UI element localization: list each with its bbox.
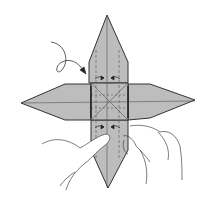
bottom-point-flap <box>91 120 128 188</box>
right-point-flap <box>128 84 195 120</box>
right-hand-icon <box>123 125 182 184</box>
looping-arrow-icon <box>51 42 86 74</box>
top-point-flap <box>89 15 128 83</box>
origami-diagram <box>0 0 205 202</box>
left-point-flap <box>21 84 91 120</box>
